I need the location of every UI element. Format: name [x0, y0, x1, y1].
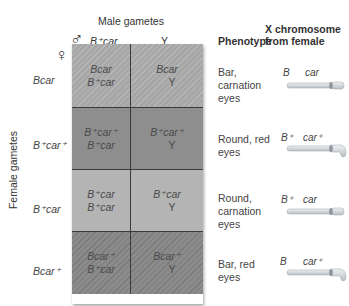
phenotype-row-3: Round, carnation eyes — [218, 192, 261, 231]
phenotype-line: Round, — [218, 192, 261, 205]
phenotype-line: eyes — [218, 218, 261, 231]
male-gametes-label: Male gametes — [98, 15, 164, 27]
phenotype-header: Phenotype — [218, 35, 272, 47]
genotype-line: Bcar — [156, 63, 178, 76]
chromosome-3-icon — [286, 206, 346, 218]
phenotype-row-1: Bar, carnation eyes — [218, 66, 261, 105]
chromosome-3-car-label: car — [303, 194, 317, 205]
row-label-1: Bcar — [33, 74, 55, 86]
genotype-line: B⁺car — [87, 201, 115, 214]
chromosome-2-icon — [286, 143, 348, 161]
chromosome-2-b-label: B⁺ — [281, 132, 293, 143]
cell-r4-c2: Bcar⁺ Y — [131, 232, 203, 294]
cell-r3-c2: B⁺car Y — [131, 170, 203, 232]
genotype-line: Y — [158, 201, 175, 214]
row-label-3: B⁺car — [33, 203, 61, 215]
genotype-line: B⁺car — [153, 188, 181, 201]
female-gametes-label: Female gametes — [7, 130, 19, 210]
genotype-line: Y — [158, 263, 175, 276]
chromosome-1-b-label: B — [283, 67, 290, 78]
genotype-line: Y — [158, 139, 175, 152]
female-symbol-icon: ♀ — [55, 46, 69, 64]
phenotype-row-2: Round, red eyes — [218, 133, 270, 159]
chromosome-4-b-label: B — [280, 256, 287, 267]
row-label-2: B⁺car⁺ — [33, 139, 67, 151]
phenotype-row-4: Bar, red eyes — [218, 258, 255, 284]
genotype-line: B⁺car — [87, 263, 115, 276]
genotype-line: B⁺car — [87, 188, 115, 201]
phenotype-line: Round, red — [218, 133, 270, 146]
chromosome-2-car-label: car⁺ — [303, 132, 322, 143]
x-chromosome-header: X chromosome from female — [265, 23, 341, 47]
punnett-grid: Bcar B⁺car Bcar Y B⁺car⁺ B⁺car B⁺car⁺ Y … — [72, 44, 203, 304]
phenotype-line: carnation — [218, 205, 261, 218]
phenotype-line: eyes — [218, 271, 255, 284]
cell-r1-c2: Bcar Y — [131, 44, 203, 108]
phenotype-line: carnation — [218, 79, 261, 92]
phenotype-line: Bar, red — [218, 258, 255, 271]
chromosome-4-car-label: car⁺ — [303, 256, 322, 267]
chromosome-3-b-label: B⁺ — [281, 194, 293, 205]
cell-r2-c1: B⁺car⁺ B⁺car — [72, 108, 131, 170]
cell-r2-c2: B⁺car⁺ Y — [131, 108, 203, 170]
genotype-line: Bcar⁺ — [87, 250, 115, 263]
phenotype-line: eyes — [218, 146, 270, 159]
genotype-line: Y — [158, 76, 175, 89]
chromosome-1-icon — [286, 80, 346, 92]
cell-r3-c1: B⁺car B⁺car — [72, 170, 131, 232]
genotype-line: B⁺car⁺ — [84, 126, 118, 139]
chromosome-1-car-label: car — [305, 67, 319, 78]
phenotype-line: Bar, — [218, 66, 261, 79]
cell-r1-c1: Bcar B⁺car — [72, 44, 131, 108]
genotype-line: B⁺car⁺ — [150, 126, 184, 139]
x-chromosome-header-line2: from female — [265, 35, 341, 47]
genotype-line: Bcar⁺ — [153, 250, 181, 263]
x-chromosome-header-line1: X chromosome — [265, 23, 341, 35]
genotype-line: B⁺car — [87, 139, 115, 152]
chromosome-4-icon — [286, 267, 348, 285]
phenotype-line: eyes — [218, 92, 261, 105]
genotype-line: Bcar — [90, 63, 112, 76]
genotype-line: B⁺car — [87, 76, 115, 89]
cell-r4-c1: Bcar⁺ B⁺car — [72, 232, 131, 294]
row-label-4: Bcar⁺ — [33, 265, 61, 277]
